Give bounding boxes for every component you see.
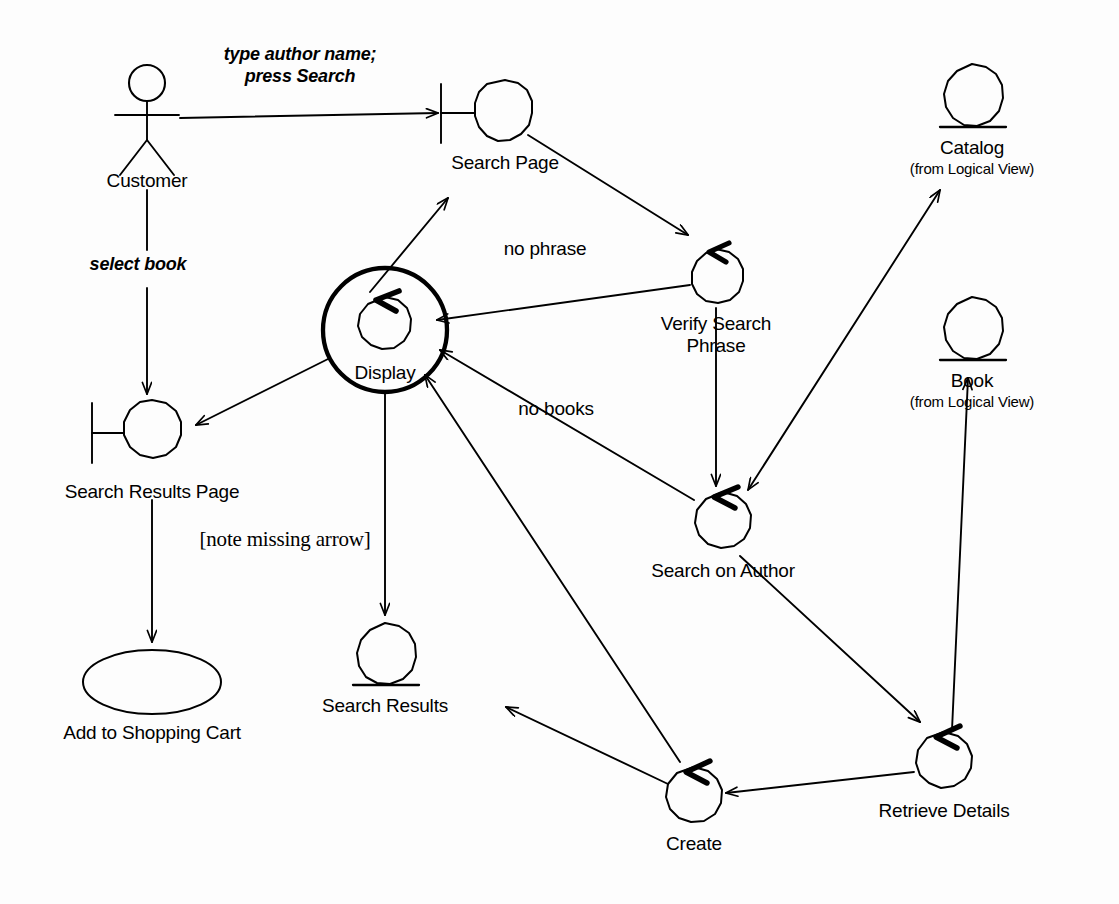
node-label-book: Book bbox=[951, 370, 994, 392]
node-label-search-results-page: Search Results Page bbox=[65, 481, 240, 503]
link-verify-search-phrase-to-display bbox=[437, 285, 690, 320]
node-label-verify-search-phrase-line2: Phrase bbox=[686, 335, 745, 357]
message-label-no-books: no books bbox=[518, 398, 594, 420]
node-label-retrieve-details: Retrieve Details bbox=[879, 800, 1010, 822]
link-customer-to-search-page bbox=[180, 113, 438, 118]
annotation-note-missing-arrow: [note missing arrow] bbox=[200, 527, 371, 551]
link-create-to-display bbox=[425, 375, 680, 762]
node-label-catalog: Catalog bbox=[940, 137, 1004, 159]
node-label-search-page: Search Page bbox=[451, 152, 559, 174]
node-search-on-author[interactable] bbox=[695, 487, 751, 548]
node-label-search-on-author: Search on Author bbox=[651, 560, 795, 582]
message-label-type-author-name-line2: press Search bbox=[245, 66, 356, 87]
link-search-on-author-to-catalog bbox=[748, 190, 940, 490]
node-search-results[interactable] bbox=[353, 623, 419, 685]
node-label-display: Display bbox=[355, 362, 416, 384]
node-customer[interactable] bbox=[115, 65, 179, 175]
node-search-page[interactable] bbox=[441, 80, 532, 143]
node-label-verify-search-phrase-line1: Verify Search bbox=[661, 313, 771, 335]
node-verify-search-phrase[interactable] bbox=[692, 243, 743, 303]
diagram-canvas bbox=[0, 0, 1119, 904]
link-create-to-search-results bbox=[506, 707, 668, 784]
node-search-results-page[interactable] bbox=[92, 400, 181, 463]
node-book[interactable] bbox=[940, 297, 1006, 360]
message-label-select-book: select book bbox=[90, 254, 187, 275]
node-label-search-results: Search Results bbox=[322, 695, 448, 717]
node-label-customer: Customer bbox=[107, 170, 188, 192]
link-retrieve-details-to-create bbox=[726, 772, 914, 793]
node-create[interactable] bbox=[666, 761, 722, 822]
link-display-to-search-page bbox=[370, 198, 448, 292]
node-retrieve-details[interactable] bbox=[916, 726, 972, 788]
node-label-create: Create bbox=[666, 833, 722, 855]
link-retrieve-details-to-book bbox=[952, 378, 968, 730]
node-sublabel-book: (from Logical View) bbox=[910, 393, 1034, 410]
message-label-no-phrase: no phrase bbox=[504, 238, 587, 260]
node-catalog[interactable] bbox=[940, 64, 1006, 127]
link-search-on-author-to-display bbox=[440, 350, 694, 500]
node-sublabel-catalog: (from Logical View) bbox=[910, 160, 1034, 177]
node-add-to-shopping-cart[interactable] bbox=[83, 650, 221, 714]
link-display-to-search-results-page bbox=[196, 358, 330, 425]
message-label-type-author-name-line1: type author name; bbox=[224, 44, 377, 65]
uml-collaboration-diagram: Customer Search Page Catalog (from Logic… bbox=[0, 0, 1119, 904]
link-search-page-to-verify-search-phrase bbox=[528, 135, 688, 235]
node-label-add-to-shopping-cart: Add to Shopping Cart bbox=[63, 722, 241, 744]
